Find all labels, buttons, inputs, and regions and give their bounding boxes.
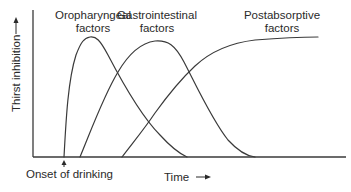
onset-label: Onset of drinking	[26, 168, 113, 180]
thirst-inhibition-diagram: Thirst inhibition Oropharyngeal factors …	[0, 0, 351, 192]
x-axis-label-group: Time	[164, 171, 211, 183]
y-axis-label: Thirst inhibition	[10, 35, 22, 112]
curves	[64, 37, 318, 157]
gastrointestinal-curve	[80, 41, 255, 157]
series-labels: Oropharyngeal factors Gastrointestinal f…	[55, 9, 320, 34]
postabsorptive-label-line2: factors	[265, 22, 300, 34]
postabsorptive-curve	[122, 37, 318, 157]
x-axis-label: Time	[164, 171, 189, 183]
onset-marker: Onset of drinking	[26, 160, 113, 180]
gastrointestinal-label-line1: Gastrointestinal	[117, 9, 197, 21]
oropharyngeal-label-line2: factors	[76, 22, 111, 34]
x-arrow-right-icon	[205, 175, 211, 180]
oropharyngeal-curve	[64, 37, 187, 157]
y-arrow-up-icon	[14, 17, 19, 23]
postabsorptive-label-line1: Postabsorptive	[244, 9, 320, 21]
gastrointestinal-label-line2: factors	[140, 22, 175, 34]
y-axis-label-group: Thirst inhibition	[10, 17, 22, 112]
